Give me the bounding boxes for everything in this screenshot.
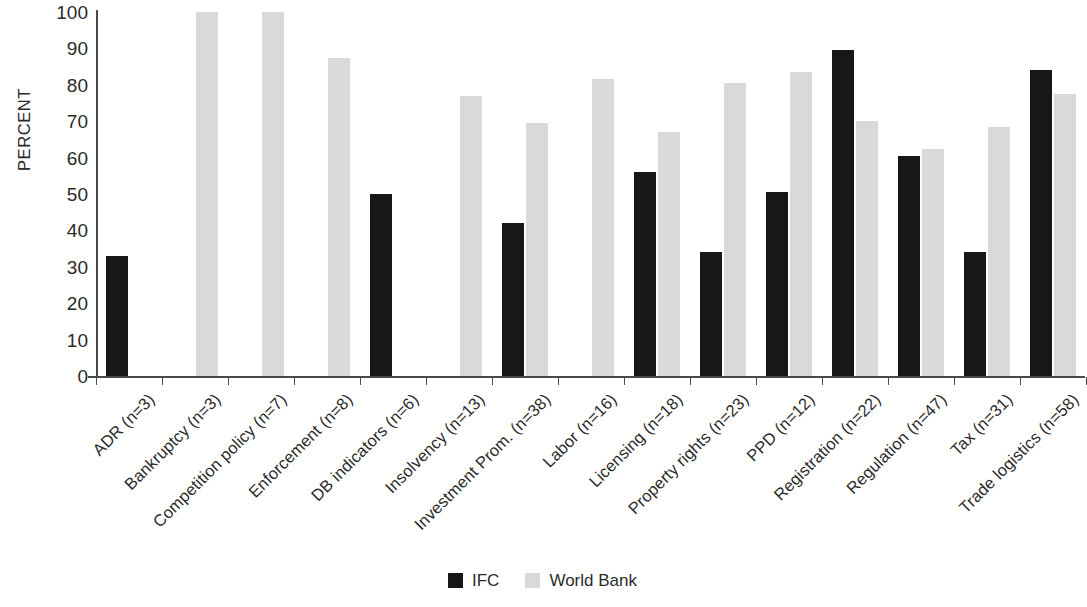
y-tick-label: 60 [30,149,88,168]
bar-ifc [106,256,128,376]
legend-label: IFC [472,572,499,589]
bar-world-bank [526,123,548,376]
y-tick-label: 40 [30,221,88,240]
bar-ifc [502,223,524,376]
bar-world-bank [1054,94,1076,376]
x-axis-category-labels: ADR (n=3)Bankruptcy (n=3)Competition pol… [0,376,1085,556]
bar-ifc [700,252,722,376]
bar-world-bank [460,96,482,376]
bar-world-bank [658,132,680,376]
y-tick-label: 10 [30,331,88,350]
bar-ifc [634,172,656,376]
bar-world-bank [262,12,284,376]
y-axis-tick-labels: 1009080706050403020100 [20,0,88,388]
bar-world-bank [196,12,218,376]
legend-item: World Bank [525,572,637,589]
bar-world-bank [592,79,614,376]
chart-legend: IFCWorld Bank [0,572,1085,589]
y-tick-label: 70 [30,112,88,131]
y-tick-label: 100 [30,3,88,22]
y-tick-label: 90 [30,39,88,58]
plot-area [96,12,1085,376]
y-tick-label: 50 [30,185,88,204]
bar-ifc [370,194,392,376]
y-tick-label: 80 [30,76,88,95]
legend-swatch-icon [448,573,463,588]
bar-world-bank [856,121,878,376]
bar-ifc [964,252,986,376]
legend-item: IFC [448,572,499,589]
bar-ifc [832,50,854,376]
bar-ifc [1030,70,1052,376]
legend-swatch-icon [525,573,540,588]
y-tick-label: 30 [30,258,88,277]
bar-world-bank [922,149,944,377]
legend-label: World Bank [549,572,637,589]
bar-ifc [766,192,788,376]
bar-ifc [898,156,920,376]
bar-world-bank [988,127,1010,376]
y-tick-label: 20 [30,294,88,313]
bar-world-bank [724,83,746,376]
bar-world-bank [790,72,812,376]
bar-world-bank [328,58,350,377]
